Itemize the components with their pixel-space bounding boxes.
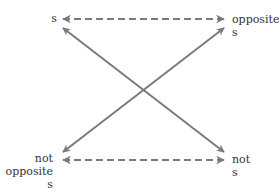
node-top-right: opposite s (232, 13, 279, 39)
square-of-opposition-diagram: s opposite s not opposite s not s (0, 0, 279, 190)
node-bottom-right-line-2: s (232, 166, 250, 179)
node-bottom-left-line-1: not (6, 152, 53, 165)
node-bottom-right: not s (232, 153, 250, 179)
node-top-right-line-2: s (232, 26, 279, 39)
node-bottom-right-line-1: not (232, 153, 250, 166)
node-top-right-line-1: opposite (232, 13, 279, 26)
node-top-left: s (51, 12, 57, 25)
node-bottom-left-line-2: opposite (6, 165, 53, 178)
node-bottom-left-line-3: s (6, 178, 53, 190)
node-bottom-left: not opposite s (6, 152, 53, 190)
node-top-left-line-1: s (51, 12, 57, 25)
